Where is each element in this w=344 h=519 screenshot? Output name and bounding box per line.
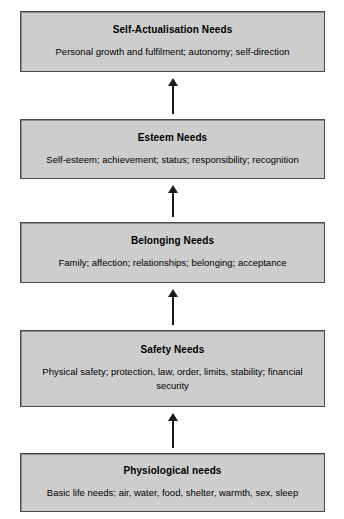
need-level-self-actualisation: Self-Actualisation Needs Personal growth… [20,11,325,72]
need-level-belonging: Belonging Needs Family; affection; relat… [20,222,325,283]
need-level-safety: Safety Needs Physical safety; protection… [20,330,325,407]
arrow-up-icon [165,289,181,325]
need-level-physiological: Physiological needs Basic life needs; ai… [20,453,325,512]
need-level-title: Esteem Needs [132,132,214,144]
need-level-title: Self-Actualisation Needs [107,24,239,36]
need-level-title: Safety Needs [134,344,210,356]
arrow-up-icon [165,78,181,114]
arrow-up-belonging-to-esteem [165,185,181,217]
maslow-hierarchy-diagram: Self-Actualisation Needs Personal growth… [0,0,344,519]
need-level-esteem: Esteem Needs Self-esteem; achievement; s… [20,119,325,179]
need-level-description: Self-esteem; achievement; status; respon… [36,153,308,167]
need-level-description: Physical safety; protection, law, order,… [21,365,324,393]
arrow-up-icon [165,185,181,217]
arrow-up-physiological-to-safety [165,413,181,448]
arrow-up-icon [165,413,181,448]
arrow-up-safety-to-belonging [165,289,181,325]
need-level-title: Belonging Needs [125,235,220,247]
need-level-title: Physiological needs [117,465,227,477]
arrow-up-esteem-to-self-actualisation [165,78,181,114]
need-level-description: Personal growth and fulfilment; autonomy… [46,45,300,59]
need-level-description: Family; affection; relationships; belong… [49,256,297,270]
need-level-description: Basic life needs; air, water, food, shel… [37,486,308,500]
